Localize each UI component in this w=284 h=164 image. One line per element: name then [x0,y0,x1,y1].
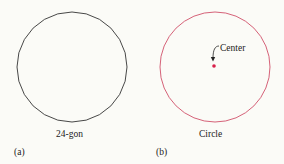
panel-tag-b: (b) [156,148,167,158]
center-arrow-icon [211,46,219,62]
figure-canvas [0,0,284,164]
24-gon-shape [17,12,127,122]
center-label: Center [220,44,245,54]
center-dot [212,64,216,68]
panel-tag-a: (a) [14,148,25,158]
caption-circle: Circle [199,130,222,140]
caption-24-gon: 24-gon [56,130,83,140]
